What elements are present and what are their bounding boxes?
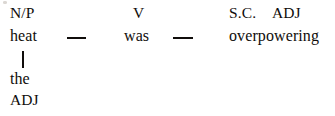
em-dash-connector-2: [173, 37, 193, 39]
word-subject-heat: heat: [10, 28, 37, 44]
word-modifier-the: the: [10, 71, 30, 87]
label-complement-adj: ADJ: [272, 5, 301, 21]
word-verb-was: was: [124, 28, 149, 44]
scan-artifact-speck: [3, 1, 7, 4]
label-subject-complement-sc: S.C.: [229, 5, 256, 21]
word-complement-overpowering: overpowering: [229, 28, 319, 44]
label-modifier-adj: ADJ: [10, 92, 38, 108]
label-subject-np: N/P: [10, 5, 34, 21]
label-verb-v: V: [133, 5, 144, 21]
sentence-diagram: N/P V S.C. ADJ heat was overpowering the…: [0, 0, 335, 116]
em-dash-connector-1: [67, 37, 86, 39]
vertical-branch-connector: [22, 51, 24, 68]
